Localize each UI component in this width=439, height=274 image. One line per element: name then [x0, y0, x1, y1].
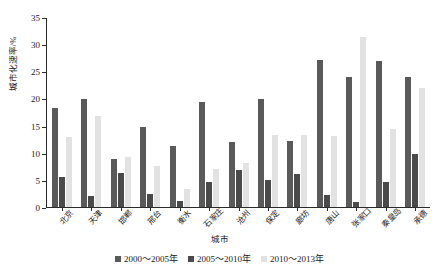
plot-area: 05101520253035	[46, 18, 430, 208]
x-axis-tick-label: 北京	[56, 207, 75, 226]
x-axis-tick-label: 沧州	[233, 207, 252, 226]
x-axis-tick-label: 唐山	[322, 207, 341, 226]
legend-item[interactable]: 2005～2010年	[188, 252, 251, 265]
bar	[66, 137, 72, 207]
bar	[324, 195, 330, 207]
y-tick-label: 5	[36, 176, 41, 186]
bar	[317, 60, 323, 207]
y-tick-label: 0	[36, 203, 41, 213]
bar	[170, 146, 176, 207]
bar	[81, 99, 87, 207]
bar-group	[342, 18, 371, 207]
y-tick-mark	[42, 181, 46, 182]
bar	[111, 159, 117, 207]
bar-groups	[47, 18, 430, 207]
bar-group	[76, 18, 105, 207]
bar	[376, 61, 382, 207]
bar-group	[401, 18, 430, 207]
bar	[206, 182, 212, 208]
bar-group	[165, 18, 194, 207]
x-axis-tick-label: 石家庄	[201, 205, 226, 230]
bar	[346, 77, 352, 207]
bar-group	[106, 18, 135, 207]
bar	[213, 169, 219, 207]
legend-swatch-icon	[115, 256, 121, 262]
bar	[301, 135, 307, 207]
bar	[229, 142, 235, 207]
y-tick-label: 35	[31, 13, 40, 23]
bar-group	[135, 18, 164, 207]
x-axis-tick-label: 秦皇岛	[378, 205, 403, 230]
y-axis-title: 城市化速率/%	[6, 4, 18, 124]
bar	[258, 99, 264, 207]
bar-group	[283, 18, 312, 207]
y-tick-mark	[42, 45, 46, 46]
bar	[287, 141, 293, 207]
y-tick-mark	[42, 72, 46, 73]
legend-swatch-icon	[261, 256, 267, 262]
x-axis-tick-label: 衡水	[174, 207, 193, 226]
bar-group	[194, 18, 223, 207]
bar-group	[253, 18, 282, 207]
legend-label: 2005～2010年	[197, 252, 251, 265]
bar	[294, 174, 300, 207]
urbanization-rate-bar-chart: 城市化速率/% 05101520253035 北京天津邯郸邢台衡水石家庄沧州保定…	[0, 0, 439, 274]
bar	[118, 173, 124, 207]
chart-legend: 2000～2005年2005～2010年2010～2013年	[0, 252, 439, 265]
bar	[52, 108, 58, 207]
y-tick-mark	[42, 99, 46, 100]
x-axis-tick-label: 廊坊	[292, 207, 311, 226]
bar-group	[371, 18, 400, 207]
y-tick-mark	[42, 18, 46, 19]
x-axis-tick-label: 邢台	[145, 207, 164, 226]
bar-group	[312, 18, 341, 207]
x-axis-tick-label: 保定	[263, 207, 282, 226]
x-axis-title: 城市	[0, 232, 439, 244]
y-tick-label: 25	[31, 67, 40, 77]
bar	[140, 127, 146, 207]
bar	[184, 189, 190, 207]
bar	[95, 116, 101, 207]
x-axis-tick-label: 邯郸	[115, 207, 134, 226]
x-axis-tick-label: 承德	[410, 207, 429, 226]
y-tick-label: 10	[31, 149, 40, 159]
bar	[236, 170, 242, 207]
bar	[383, 182, 389, 208]
bar	[88, 196, 94, 207]
bar	[272, 135, 278, 207]
legend-swatch-icon	[188, 256, 194, 262]
y-tick-label: 20	[31, 94, 40, 104]
y-tick-mark	[42, 154, 46, 155]
legend-label: 2010～2013年	[270, 252, 324, 265]
y-tick-label: 30	[31, 40, 40, 50]
bar-group	[47, 18, 76, 207]
bar-group	[224, 18, 253, 207]
bar	[331, 136, 337, 207]
x-axis-tick-label: 天津	[86, 207, 105, 226]
y-tick-mark	[42, 208, 46, 209]
legend-item[interactable]: 2010～2013年	[261, 252, 324, 265]
bar	[154, 166, 160, 207]
bar	[265, 180, 271, 207]
legend-item[interactable]: 2000～2005年	[115, 252, 178, 265]
y-tick-mark	[42, 127, 46, 128]
bar	[125, 157, 131, 207]
bar	[199, 102, 205, 207]
bar	[147, 194, 153, 207]
bar	[59, 177, 65, 207]
bar	[419, 88, 425, 207]
bar	[360, 37, 366, 207]
bar	[412, 154, 418, 207]
bar	[405, 77, 411, 207]
legend-label: 2000～2005年	[124, 252, 178, 265]
bar	[390, 129, 396, 207]
bar	[243, 163, 249, 208]
x-axis-tick-label: 张家口	[349, 205, 374, 230]
y-tick-label: 15	[31, 122, 40, 132]
